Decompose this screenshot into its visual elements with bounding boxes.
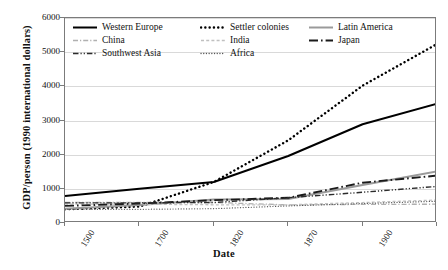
x-axis-title: Date [0,248,448,259]
series-line-settler-colonies [65,44,436,209]
y-axis-tick-label: 6000 [22,12,60,22]
y-axis-tick [60,85,64,86]
legend-swatch-china [72,36,98,45]
legend-swatch-settler-colonies [200,23,226,32]
legend-swatch-western-europe [72,23,98,32]
legend-item-settler-colonies[interactable]: Settler colonies [200,23,308,33]
chart-figure: GDP/person (1990 international dollars) … [0,0,448,270]
x-axis-tick [287,222,288,226]
y-axis-tick-label: 5000 [22,46,60,56]
x-axis-tick [213,222,214,226]
legend-label-japan: Japan [338,36,360,46]
x-axis-tick [138,222,139,226]
x-axis-tick-label: 1900 [376,228,394,249]
legend-item-china[interactable]: China [72,36,200,46]
x-axis-tick [436,222,437,226]
legend-swatch-africa [200,49,226,58]
legend-item-india[interactable]: India [200,36,308,46]
legend-item-africa[interactable]: Africa [200,49,308,59]
y-axis-tick-label: 4000 [22,80,60,90]
y-axis-tick-labels: 0100020003000400050006000 [22,0,60,270]
y-axis-tick [60,51,64,52]
y-axis-tick [60,17,64,18]
y-axis-tick-label: 0 [22,217,60,227]
x-axis-tick-label: 1500 [78,228,96,249]
legend-swatch-southwest-asia [72,49,98,58]
legend-swatch-india [200,36,226,45]
series-line-southwest-asia [65,186,436,202]
y-axis-tick [60,154,64,155]
chart-legend: Western EuropeSettler coloniesLatin Amer… [72,21,370,60]
legend-label-china: China [102,36,125,46]
y-axis-tick [60,120,64,121]
legend-item-latin-america[interactable]: Latin America [308,23,370,33]
x-axis-tick-label: 1820 [227,228,245,249]
x-axis-tick [362,222,363,226]
legend-label-latin-america: Latin America [338,23,393,33]
x-axis-tick-label: 1700 [153,228,171,249]
y-axis-tick-label: 1000 [22,183,60,193]
legend-label-africa: Africa [230,49,254,59]
legend-item-japan[interactable]: Japan [308,36,370,46]
legend-label-settler-colonies: Settler colonies [230,23,289,33]
legend-label-southwest-asia: Southwest Asia [102,49,161,59]
y-axis-tick [60,188,64,189]
legend-label-western-europe: Western Europe [102,23,163,33]
y-axis-tick-label: 3000 [22,115,60,125]
legend-item-western-europe[interactable]: Western Europe [72,23,200,33]
x-axis-tick [64,222,65,226]
legend-label-india: India [230,36,250,46]
x-axis-tick-label: 1870 [302,228,320,249]
y-axis-tick-label: 2000 [22,149,60,159]
legend-swatch-latin-america [308,23,334,32]
legend-swatch-japan [308,36,334,45]
legend-item-southwest-asia[interactable]: Southwest Asia [72,49,200,59]
